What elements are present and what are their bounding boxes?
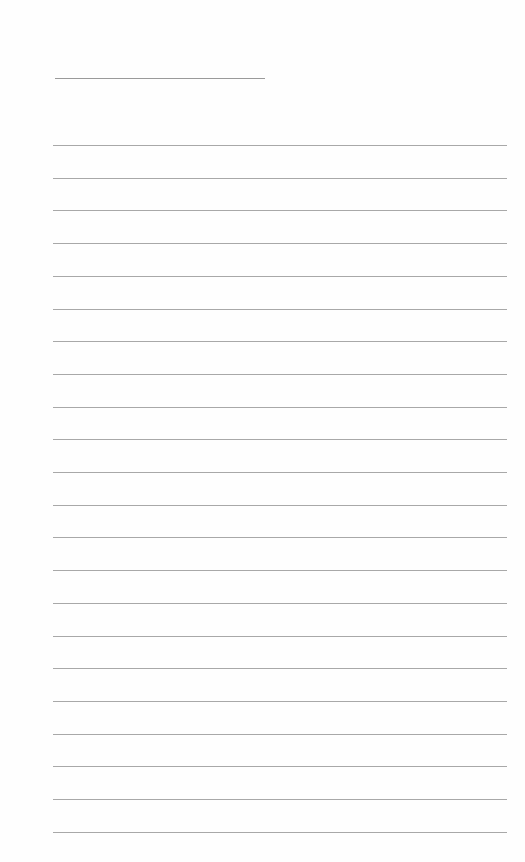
ruled-line — [53, 210, 507, 211]
ruled-line — [53, 407, 507, 408]
ruled-line — [53, 439, 507, 440]
ruled-line — [53, 505, 507, 506]
ruled-line — [53, 243, 507, 244]
ruled-line — [53, 537, 507, 538]
ruled-line — [53, 276, 507, 277]
ruled-line — [53, 668, 507, 669]
ruled-line — [53, 799, 507, 800]
ruled-line — [53, 374, 507, 375]
ruled-line — [53, 734, 507, 735]
ruled-line — [53, 636, 507, 637]
title-underline — [55, 78, 265, 79]
ruled-line — [53, 766, 507, 767]
ruled-line — [53, 832, 507, 833]
notepad-page — [0, 0, 525, 862]
ruled-line — [53, 178, 507, 179]
ruled-line — [53, 145, 507, 146]
ruled-line — [53, 309, 507, 310]
ruled-line — [53, 603, 507, 604]
ruled-line — [53, 570, 507, 571]
ruled-line — [53, 701, 507, 702]
ruled-line — [53, 472, 507, 473]
ruled-line — [53, 341, 507, 342]
